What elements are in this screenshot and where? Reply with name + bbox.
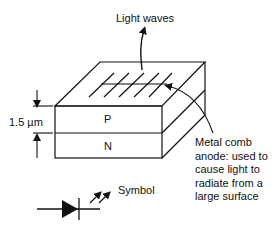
led-symbol-icon [37, 194, 108, 220]
metal-comb-anode [89, 73, 172, 97]
light-waves-arrow-icon [141, 30, 144, 70]
symbol-label: Symbol [118, 184, 155, 197]
thickness-label: 1.5 µm [9, 116, 43, 129]
p-layer-label: P [104, 113, 111, 126]
n-layer-label: N [104, 140, 112, 153]
light-waves-label: Light waves [116, 12, 174, 25]
anode-note-label: Metal comb anode: used to cause light to… [195, 136, 280, 204]
